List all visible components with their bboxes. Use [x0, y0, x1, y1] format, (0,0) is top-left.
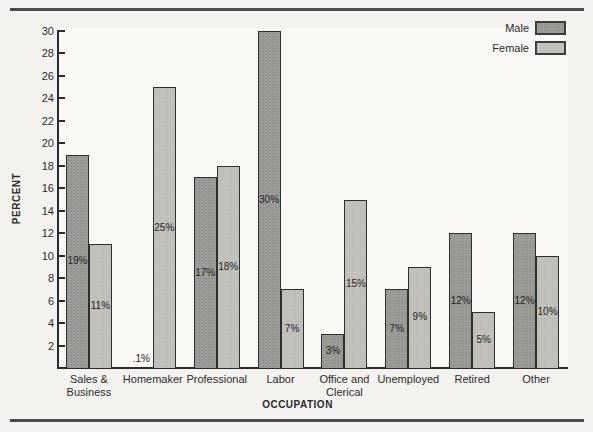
- category-label-1: Homemaker: [118, 373, 188, 386]
- chart-figure: PERCENT OCCUPATION 246810121416182022242…: [0, 0, 593, 432]
- y-tick-label: 20: [24, 138, 54, 149]
- y-tick: [59, 30, 65, 32]
- y-tick-label: 6: [24, 296, 54, 307]
- category-label-7: Other: [501, 373, 571, 386]
- y-tick-label: 10: [24, 251, 54, 262]
- y-tick: [59, 345, 65, 347]
- value-label-male-3: 30%: [252, 194, 286, 206]
- value-label-male-6: 12%: [444, 295, 478, 307]
- y-tick: [59, 300, 65, 302]
- y-tick: [59, 322, 65, 324]
- category-label-0: Sales &Business: [54, 373, 124, 399]
- category-label-6: Retired: [437, 373, 507, 386]
- y-tick: [59, 52, 65, 54]
- value-label-female-7: 10%: [531, 306, 565, 318]
- y-tick: [59, 75, 65, 77]
- value-label-female-0: 11%: [83, 300, 117, 312]
- bottom-rule: [10, 419, 584, 422]
- y-tick-label: 16: [24, 183, 54, 194]
- y-axis: [57, 30, 59, 368]
- y-tick-label: 26: [24, 71, 54, 82]
- y-tick: [59, 165, 65, 167]
- value-label-female-5: 9%: [403, 311, 437, 323]
- legend-swatch-female-icon: [535, 41, 566, 55]
- legend-item-female: Female: [492, 41, 566, 55]
- legend-label-male: Male: [505, 22, 529, 34]
- y-tick: [59, 232, 65, 234]
- y-tick-label: 18: [24, 161, 54, 172]
- y-tick-label: 12: [24, 228, 54, 239]
- y-tick-label: 8: [24, 273, 54, 284]
- y-tick-label: 24: [24, 93, 54, 104]
- y-tick: [59, 97, 65, 99]
- legend-label-female: Female: [492, 42, 529, 54]
- bar-male-1: [130, 367, 153, 368]
- y-tick-label: 14: [24, 206, 54, 217]
- legend-item-male: Male: [492, 21, 566, 35]
- y-tick-label: 22: [24, 116, 54, 127]
- category-label-2: Professional: [182, 373, 252, 386]
- y-tick-label: 30: [24, 26, 54, 37]
- y-tick: [59, 187, 65, 189]
- x-axis-title: OCCUPATION: [57, 399, 538, 410]
- category-label-3: Labor: [246, 373, 316, 386]
- value-label-female-4: 15%: [339, 278, 373, 290]
- y-tick-label: 2: [24, 341, 54, 352]
- category-label-4: Office andClerical: [309, 373, 379, 399]
- value-label-female-3: 7%: [275, 323, 309, 335]
- value-label-female-1: 25%: [147, 222, 181, 234]
- category-label-5: Unemployed: [373, 373, 443, 386]
- value-label-female-2: 18%: [211, 261, 245, 273]
- y-tick: [59, 277, 65, 279]
- top-rule: [10, 8, 584, 11]
- y-tick: [59, 210, 65, 212]
- value-label-female-6: 5%: [467, 334, 501, 346]
- legend: Male Female: [492, 21, 566, 61]
- y-axis-title: PERCENT: [11, 164, 22, 234]
- y-tick-label: 4: [24, 318, 54, 329]
- y-tick: [59, 120, 65, 122]
- legend-swatch-male-icon: [535, 21, 566, 35]
- y-tick: [59, 142, 65, 144]
- y-tick-label: 28: [24, 48, 54, 59]
